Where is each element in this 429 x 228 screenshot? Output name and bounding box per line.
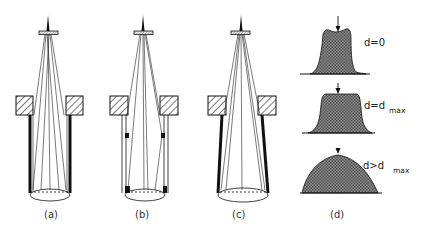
profile-label-d0: d=0 bbox=[364, 37, 385, 48]
profile-label-dmax-sub: max bbox=[389, 106, 406, 115]
rays bbox=[33, 34, 66, 190]
panel-label-b: (b) bbox=[135, 209, 149, 220]
target-ellipse bbox=[30, 189, 70, 201]
panel-c: (c) bbox=[208, 15, 276, 220]
panel-label-c: (c) bbox=[232, 209, 245, 220]
hatched-block-left bbox=[16, 96, 33, 115]
needle-icon bbox=[240, 15, 243, 31]
profile-gt-dmax: d>d max bbox=[300, 148, 410, 193]
panel-d: d=0 d=d max d>d max (d) bbox=[300, 16, 410, 220]
panel-label-d: (d) bbox=[330, 209, 344, 220]
aperture-upper-left bbox=[125, 133, 129, 138]
profile-dmax: d=d max bbox=[302, 83, 406, 133]
tube-wall-left bbox=[218, 115, 222, 193]
hatched-block-left bbox=[208, 96, 226, 115]
panel-a: (a) bbox=[16, 15, 83, 220]
profile-label-gt-dmax-sub: max bbox=[393, 166, 410, 175]
rays bbox=[127, 34, 162, 190]
hatched-block-right bbox=[160, 96, 178, 115]
profile-label-dmax: d=d bbox=[364, 100, 385, 111]
hatched-block-right bbox=[258, 96, 276, 115]
aperture-lower-right bbox=[163, 186, 167, 193]
hatched-block-right bbox=[66, 96, 83, 115]
needle-icon bbox=[47, 15, 50, 31]
profile-d0: d=0 bbox=[300, 16, 385, 74]
target-plate bbox=[231, 31, 250, 35]
target-ellipse bbox=[125, 189, 165, 201]
target-plate bbox=[39, 31, 58, 35]
panel-b: (b) bbox=[110, 15, 178, 220]
arrow-down-icon bbox=[336, 148, 341, 154]
diagram-canvas: (a) (b) bbox=[0, 0, 429, 228]
profile-label-gt-dmax: d>d bbox=[363, 160, 384, 171]
panel-label-a: (a) bbox=[44, 209, 58, 220]
target-plate bbox=[134, 31, 153, 35]
needle-icon bbox=[142, 15, 145, 31]
target-ellipse bbox=[218, 188, 268, 202]
hatched-block-left bbox=[110, 96, 128, 115]
tube-wall-right bbox=[262, 115, 268, 193]
